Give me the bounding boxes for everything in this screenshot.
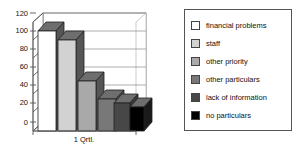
y-tick-label: 40 — [20, 80, 28, 89]
chart-screenshot: 120 100 80 60 40 20 0 — [0, 0, 298, 145]
y-tick-label: 60 — [20, 62, 28, 71]
legend-item-other-priority: other priority — [191, 52, 287, 70]
bar-chart-figure: 120 100 80 60 40 20 0 — [0, 0, 180, 145]
y-tick-label: 120 — [15, 9, 28, 18]
legend-item-label: financial problems — [206, 21, 266, 30]
legend-swatch-icon — [191, 93, 200, 102]
legend-item-label: no particulars — [206, 111, 251, 120]
y-tick-label: 20 — [20, 98, 28, 107]
chart-legend: financial problems staff other priority … — [184, 9, 292, 131]
legend-item-label: other particulars — [206, 75, 260, 84]
y-axis-tick-labels: 120 100 80 60 40 20 0 — [15, 9, 28, 127]
y-tick-label: 80 — [20, 44, 28, 53]
legend-item-lack-of-information: lack of information — [191, 88, 287, 106]
x-axis-label: 1 Qrtl. — [74, 135, 94, 144]
legend-item-financial-problems: financial problems — [191, 16, 287, 34]
legend-swatch-icon — [191, 57, 200, 66]
chart-canvas: 120 100 80 60 40 20 0 — [0, 0, 180, 145]
legend-item-label: other priority — [206, 57, 248, 66]
legend-item-no-particulars: no particulars — [191, 106, 287, 124]
legend-swatch-icon — [191, 111, 200, 120]
legend-swatch-icon — [191, 75, 200, 84]
legend-item-staff: staff — [191, 34, 287, 52]
bar-no-particulars — [130, 98, 152, 131]
legend-swatch-icon — [191, 39, 200, 48]
y-tick-label: 100 — [15, 26, 28, 35]
legend-swatch-icon — [191, 21, 200, 30]
legend-item-label: lack of information — [206, 93, 267, 102]
legend-item-label: staff — [206, 39, 220, 48]
y-tick-label: 0 — [24, 118, 28, 127]
legend-item-other-particulars: other particulars — [191, 70, 287, 88]
